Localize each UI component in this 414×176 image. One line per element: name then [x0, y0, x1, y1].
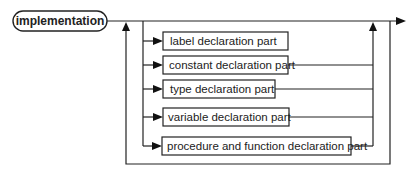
loop-up-arrow-icon [122, 22, 130, 31]
arrow-icon [153, 37, 163, 45]
exit-arrow-icon [396, 17, 406, 25]
join-up-arrow-icon [369, 22, 377, 31]
alt-label: procedure and function declaration part [167, 140, 368, 152]
alt-label: variable declaration part [168, 111, 292, 123]
implementation-terminal: implementation [13, 11, 107, 31]
arrow-icon [153, 85, 163, 93]
alternative-constant-declaration-part: constant declaration part [143, 56, 373, 74]
alternative-variable-declaration-part: variable declaration part [143, 108, 373, 126]
arrow-icon [153, 113, 163, 121]
alt-label: type declaration part [170, 83, 275, 95]
terminal-label: implementation [16, 14, 105, 28]
syntax-diagram: implementation label declaration part co… [0, 0, 414, 176]
arrow-icon [153, 61, 163, 69]
arrow-icon [152, 142, 162, 150]
alt-label: label declaration part [170, 35, 278, 47]
alternative-procedure-and-function-declaration-part: procedure and function declaration part [143, 137, 373, 155]
alternative-type-declaration-part: type declaration part [143, 80, 373, 98]
alternative-label-declaration-part: label declaration part [143, 32, 288, 50]
alt-label: constant declaration part [169, 59, 296, 71]
